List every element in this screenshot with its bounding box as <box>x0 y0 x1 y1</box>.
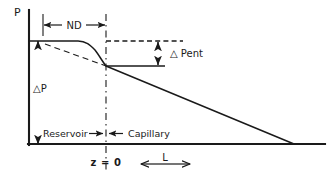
z-origin-label: z = 0 <box>90 157 121 168</box>
capillary-length-dimension: L <box>141 152 190 164</box>
diagram-canvas: ND △ Pent △P P Reservoir Capillary z = 0 <box>0 0 333 181</box>
entrance-length-dimension: ND <box>43 14 105 36</box>
extrapolated-gradient-line <box>45 44 106 66</box>
region-labels: Reservoir Capillary <box>43 128 170 139</box>
capillary-length-label: L <box>162 152 168 163</box>
reservoir-label: Reservoir <box>43 128 88 139</box>
entrance-pressure-drop-dimension: △ Pent <box>158 42 203 65</box>
y-axis-label: P <box>14 6 21 19</box>
capillary-label: Capillary <box>128 128 170 139</box>
entrance-length-label: ND <box>66 20 81 31</box>
entrance-pressure-drop-label: △ Pent <box>170 48 203 59</box>
pressure-profile-diagram: ND △ Pent △P P Reservoir Capillary z = 0 <box>0 0 333 181</box>
total-pressure-drop-label: △P <box>33 83 47 94</box>
